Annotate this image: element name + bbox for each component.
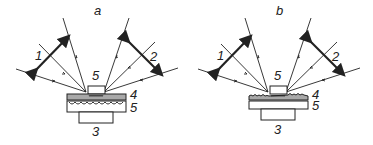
base-3 (79, 112, 113, 123)
label-5: 5 (312, 98, 320, 113)
base-3 (261, 109, 295, 120)
diagram-canvas: a 1 2 5 4 (0, 0, 373, 145)
label-5: 5 (130, 100, 138, 115)
label-chip-5: 5 (92, 68, 100, 83)
chip-5 (88, 86, 105, 94)
label-2: 2 (331, 49, 340, 64)
label-chip-5: 5 (274, 68, 282, 83)
chip-5 (270, 86, 287, 94)
panel-b-title: b (276, 3, 283, 18)
layer-5 (249, 101, 308, 109)
diagram-svg: a 1 2 5 4 (0, 0, 373, 145)
label-1: 1 (35, 48, 42, 63)
label-1: 1 (217, 48, 224, 63)
label-3: 3 (92, 124, 100, 139)
panel-a-title: a (94, 3, 101, 18)
panel-a: a 1 2 5 4 (16, 3, 178, 139)
layer-4 (67, 94, 126, 100)
panel-b: b 1 2 5 4 5 3 (198, 3, 360, 137)
label-3: 3 (274, 122, 282, 137)
label-2: 2 (149, 49, 158, 64)
